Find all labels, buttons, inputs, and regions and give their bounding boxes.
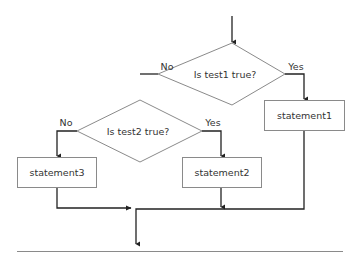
decision1-yes-label: Yes — [288, 62, 303, 72]
decision1-no-label: No — [161, 62, 174, 72]
decision1-text: Is test1 true? — [194, 70, 257, 80]
statement3-label: statement3 — [30, 167, 85, 178]
decision2-no-connector — [57, 131, 77, 156]
bottom-separator — [17, 251, 343, 252]
statement1-label: statement1 — [277, 110, 332, 121]
decision2-yes-connector — [202, 131, 221, 156]
decision2-text: Is test2 true? — [107, 127, 170, 137]
statement2-label: statement2 — [195, 167, 250, 178]
decision2-no-label: No — [60, 118, 73, 128]
statement1-box: statement1 — [264, 100, 345, 131]
decision1-yes-connector — [285, 74, 304, 99]
decision2-yes-label: Yes — [205, 118, 220, 128]
statement3-exit-connector — [57, 187, 131, 208]
flowchart-canvas — [0, 0, 361, 267]
statement2-box: statement2 — [182, 157, 262, 188]
statement3-box: statement3 — [17, 157, 97, 188]
